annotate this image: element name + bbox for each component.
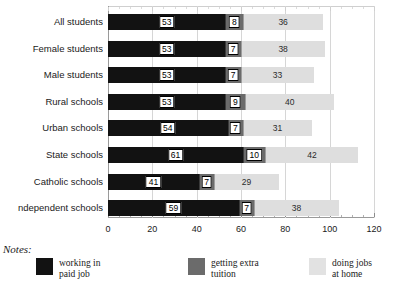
tick-top-75 bbox=[274, 7, 275, 9]
gridline-80 bbox=[285, 6, 286, 218]
tick-top-110 bbox=[352, 7, 353, 9]
tick-top-5 bbox=[119, 7, 120, 9]
value-label: 40 bbox=[285, 97, 294, 107]
value-label: 61 bbox=[168, 149, 183, 161]
legend-item: working inpaid job bbox=[36, 258, 100, 279]
value-label: 31 bbox=[273, 123, 282, 133]
tick-top-50 bbox=[219, 7, 220, 9]
value-label: 33 bbox=[273, 70, 282, 80]
tick-top-65 bbox=[252, 7, 253, 9]
value-label: 38 bbox=[292, 203, 301, 213]
tick-major-120 bbox=[374, 213, 375, 217]
tick-top-115 bbox=[363, 7, 364, 9]
value-label: 54 bbox=[160, 122, 175, 134]
tick-top-40 bbox=[197, 7, 198, 11]
value-label: 10 bbox=[247, 149, 262, 161]
tick-top-15 bbox=[141, 7, 142, 9]
tick-top-120 bbox=[374, 7, 375, 11]
tick-minor-115 bbox=[363, 215, 364, 217]
tick-top-70 bbox=[263, 7, 264, 9]
legend-label-line1: doing jobs bbox=[332, 258, 372, 269]
value-label: 8 bbox=[229, 16, 240, 28]
notes-heading: Notes: bbox=[3, 243, 32, 255]
value-label: 36 bbox=[278, 17, 287, 27]
tick-top-25 bbox=[163, 7, 164, 9]
value-label: 29 bbox=[242, 177, 251, 187]
value-label: 53 bbox=[159, 96, 174, 108]
tick-minor-105 bbox=[341, 215, 342, 217]
tick-top-85 bbox=[296, 7, 297, 9]
value-label: 53 bbox=[159, 43, 174, 55]
legend-label-line1: working in bbox=[59, 258, 100, 269]
legend-label-line2: tuition bbox=[211, 269, 259, 280]
value-label: 42 bbox=[307, 150, 316, 160]
tick-top-100 bbox=[330, 7, 331, 11]
value-label: 7 bbox=[230, 122, 241, 134]
tick-top-10 bbox=[130, 7, 131, 9]
value-label: 41 bbox=[146, 176, 161, 188]
x-tick-label-20: 20 bbox=[147, 224, 157, 234]
legend-item: doing jobsat home bbox=[309, 258, 372, 279]
tick-top-90 bbox=[308, 7, 309, 9]
x-tick-label-120: 120 bbox=[366, 224, 381, 234]
x-tick-label-100: 100 bbox=[322, 224, 337, 234]
value-label: 7 bbox=[228, 43, 239, 55]
stacked-bar-chart: All students53836Female students53738Mal… bbox=[0, 0, 393, 289]
legend-label-line1: getting extra bbox=[211, 258, 259, 269]
gray-swatch bbox=[188, 258, 205, 275]
x-tick-label-60: 60 bbox=[236, 224, 246, 234]
category-label: Urban schools bbox=[0, 120, 103, 136]
value-label: 53 bbox=[159, 69, 174, 81]
tick-top-30 bbox=[175, 7, 176, 9]
tick-top-35 bbox=[186, 7, 187, 9]
tick-minor-110 bbox=[352, 215, 353, 217]
value-label: 53 bbox=[159, 16, 174, 28]
tick-top-0 bbox=[108, 7, 109, 11]
gridline-100 bbox=[330, 6, 331, 218]
tick-top-105 bbox=[341, 7, 342, 9]
category-label: Catholic schools bbox=[0, 174, 103, 190]
black-swatch bbox=[36, 258, 53, 275]
legend-item: getting extratuition bbox=[188, 258, 259, 279]
x-tick-label-80: 80 bbox=[280, 224, 290, 234]
x-tick-label-0: 0 bbox=[105, 224, 110, 234]
legend-label-line2: paid job bbox=[59, 269, 100, 280]
value-label: 7 bbox=[201, 176, 212, 188]
category-label: ndependent schools bbox=[0, 200, 103, 216]
legend-label: getting extratuition bbox=[211, 258, 259, 279]
legend-label: doing jobsat home bbox=[332, 258, 372, 279]
value-label: 38 bbox=[278, 44, 287, 54]
x-tick-label-40: 40 bbox=[192, 224, 202, 234]
legend-label-line2: at home bbox=[332, 269, 372, 280]
value-label: 9 bbox=[230, 96, 241, 108]
value-label: 7 bbox=[241, 202, 252, 214]
light-gray-swatch bbox=[309, 258, 326, 275]
tick-top-45 bbox=[208, 7, 209, 9]
category-label: State schools bbox=[0, 147, 103, 163]
gridline-120 bbox=[374, 6, 375, 218]
category-label: All students bbox=[0, 14, 103, 30]
tick-top-95 bbox=[319, 7, 320, 9]
tick-top-60 bbox=[241, 7, 242, 11]
value-label: 7 bbox=[228, 69, 239, 81]
tick-top-55 bbox=[230, 7, 231, 9]
chart-legend: working inpaid jobgetting extratuitiondo… bbox=[36, 258, 393, 286]
category-label: Rural schools bbox=[0, 94, 103, 110]
tick-top-20 bbox=[152, 7, 153, 11]
legend-label: working inpaid job bbox=[59, 258, 100, 279]
tick-top-80 bbox=[285, 7, 286, 11]
category-label: Male students bbox=[0, 67, 103, 83]
value-label: 59 bbox=[166, 202, 181, 214]
category-label: Female students bbox=[0, 41, 103, 57]
